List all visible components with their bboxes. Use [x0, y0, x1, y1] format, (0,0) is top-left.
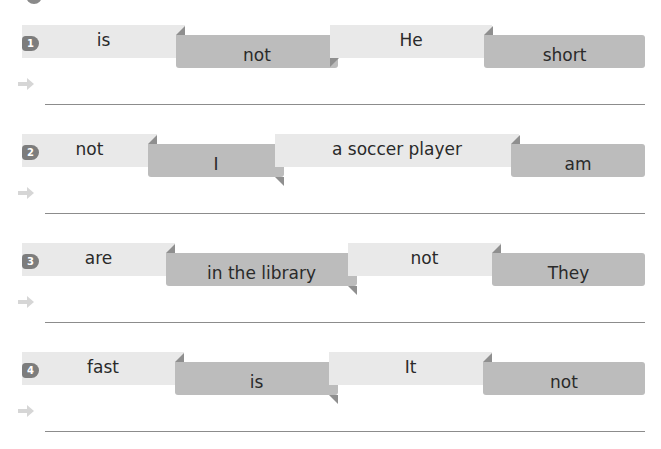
ribbon-fold: [483, 353, 492, 362]
arrow-right-icon: [18, 78, 34, 90]
word-text: is: [97, 30, 111, 50]
word-card[interactable]: am: [511, 144, 645, 177]
word-card[interactable]: is: [175, 362, 338, 395]
exercise-number-badge: 4: [22, 363, 39, 378]
word-text: not: [243, 45, 271, 65]
exercise-3: are 3 in the library not They: [0, 243, 661, 352]
word-text: in the library: [207, 263, 316, 283]
word-text: not: [550, 372, 578, 392]
word-text: fast: [87, 357, 119, 377]
word-text: I: [213, 154, 218, 174]
ribbon-fold: [511, 135, 520, 144]
section-marker-icon: [26, 0, 42, 4]
answer-line[interactable]: [45, 104, 645, 105]
arrow-right-icon: [18, 296, 34, 308]
word-text: short: [543, 45, 587, 65]
word-card[interactable]: is: [22, 25, 185, 58]
word-text: He: [399, 30, 422, 50]
answer-line[interactable]: [45, 431, 645, 432]
word-card[interactable]: not: [176, 35, 338, 68]
exercise-number-badge: 2: [22, 145, 39, 160]
arrow-right-icon: [18, 405, 34, 417]
word-card[interactable]: in the library: [166, 253, 357, 286]
word-text: is: [250, 372, 264, 392]
ribbon-fold: [330, 58, 339, 67]
answer-line[interactable]: [45, 213, 645, 214]
word-card[interactable]: They: [492, 253, 645, 286]
ribbon-fold: [492, 244, 501, 253]
word-text: am: [565, 154, 592, 174]
word-text: a soccer player: [332, 139, 462, 159]
exercise-number-badge: 1: [22, 36, 39, 51]
word-text: They: [548, 263, 590, 283]
word-card[interactable]: I: [148, 144, 284, 177]
ribbon-fold: [484, 26, 493, 35]
word-card[interactable]: are: [22, 243, 175, 276]
ribbon-fold: [176, 26, 185, 35]
word-card[interactable]: not: [483, 362, 645, 395]
ribbon-fold: [148, 135, 157, 144]
ribbon-fold: [275, 177, 284, 186]
answer-line[interactable]: [45, 322, 645, 323]
exercise-4: fast 4 is It not: [0, 352, 661, 449]
word-text: not: [76, 139, 104, 159]
word-card[interactable]: a soccer player: [275, 134, 519, 167]
ribbon-fold: [166, 244, 175, 253]
word-card[interactable]: not: [22, 134, 157, 167]
word-card[interactable]: short: [484, 35, 645, 68]
ribbon-fold: [329, 395, 338, 404]
word-card[interactable]: He: [330, 25, 492, 58]
exercise-1: is 1 not He short: [0, 25, 661, 134]
word-card[interactable]: It: [329, 352, 492, 385]
ribbon-fold: [175, 353, 184, 362]
arrow-right-icon: [18, 187, 34, 199]
exercise-2: not 2 I a soccer player am: [0, 134, 661, 243]
word-text: not: [411, 248, 439, 268]
word-text: are: [85, 248, 113, 268]
word-card[interactable]: fast: [22, 352, 184, 385]
exercise-number-badge: 3: [22, 254, 39, 269]
word-text: It: [405, 357, 417, 377]
word-card[interactable]: not: [348, 243, 501, 276]
ribbon-fold: [348, 286, 357, 295]
